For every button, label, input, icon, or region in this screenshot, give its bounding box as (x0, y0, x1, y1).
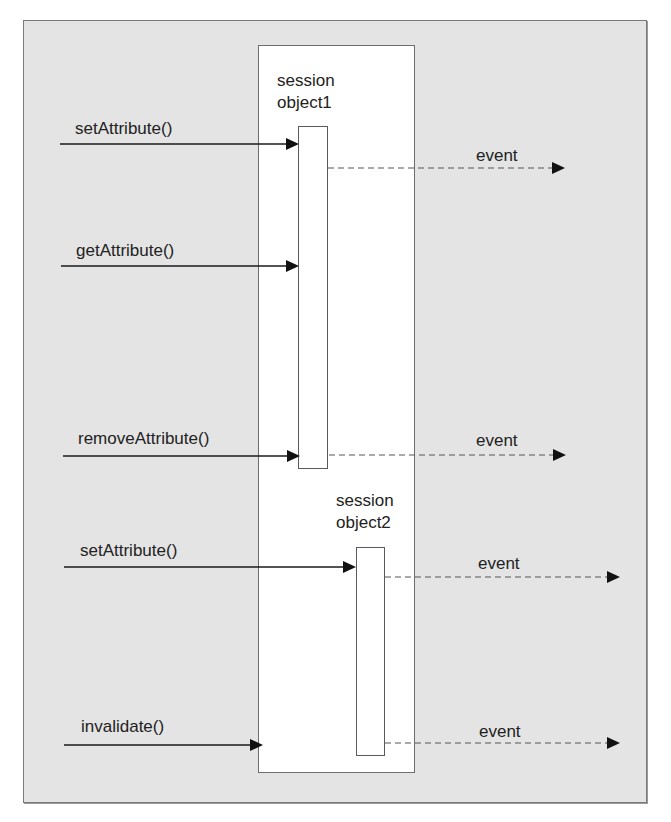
call-label-setattribute-2: setAttribute() (80, 541, 177, 561)
activation-bar-object1 (298, 126, 328, 469)
lifeline-label-line2: object2 (336, 512, 394, 534)
event-label-1: event (476, 146, 518, 166)
call-label-invalidate: invalidate() (81, 717, 164, 737)
lifeline-label-line1: session (336, 490, 394, 512)
event-label-2: event (476, 431, 518, 451)
event-label-4: event (479, 722, 521, 742)
lifeline-label-object1: session object1 (277, 70, 335, 114)
call-label-setattribute-1: setAttribute() (75, 119, 172, 139)
call-label-getattribute: getAttribute() (76, 241, 174, 261)
call-label-removeattribute: removeAttribute() (78, 429, 209, 449)
activation-bar-object2 (356, 547, 385, 756)
lifeline-label-line1: session (277, 70, 335, 92)
lifeline-label-line2: object1 (277, 92, 335, 114)
event-label-3: event (478, 554, 520, 574)
lifeline-label-object2: session object2 (336, 490, 394, 534)
session-container-box (258, 45, 415, 773)
